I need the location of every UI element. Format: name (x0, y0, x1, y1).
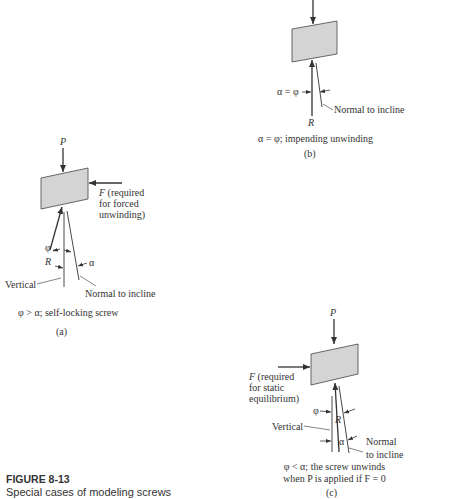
panel-c-vertical-label: Vertical (272, 421, 303, 432)
panel-c-phi-label: φ (313, 405, 319, 416)
panel-b-condition: α = φ; impending unwinding (258, 133, 373, 145)
panel-c-alpha-label: α (339, 436, 344, 447)
panel-c-f-label: F (249, 371, 255, 382)
panel-c-tag: (c) (326, 487, 337, 499)
panel-a-alpha-label: α (89, 257, 94, 268)
panel-b-block (292, 21, 337, 62)
panel-b-normal-line (316, 63, 322, 107)
panel-a-phi-label: φ (45, 242, 51, 253)
panel-c-condition: φ < α; the screw unwinds when P is appli… (283, 461, 386, 485)
panel-c-p-label: P (330, 307, 336, 318)
panel-b-angle-label: α = φ (277, 86, 299, 97)
panel-a-condition: φ > α; self-locking screw (18, 307, 119, 319)
panel-a-block (41, 168, 88, 209)
panel-c-f-note: F (required for static equilibrium) (249, 371, 299, 404)
panel-a-vertical-label: Vertical (5, 279, 36, 290)
panel-b-r-label: R (308, 117, 314, 128)
panel-c-block (311, 344, 358, 385)
panel-a-f-label: F (99, 187, 105, 198)
panel-a-f-note: F (required for forced unwinding) (99, 187, 145, 220)
panel-a-normal-label: Normal to incline (85, 288, 156, 299)
panel-c-r-label: R (335, 414, 341, 425)
panel-a-r-arrow (50, 207, 62, 250)
panel-c-normal-label: Normal to incline (366, 435, 404, 461)
panel-a-r-label: R (45, 256, 51, 267)
panel-a-p-label: P (60, 136, 66, 147)
figure-number: FIGURE 8-13 (6, 473, 70, 485)
panel-a-normal-line (67, 211, 79, 280)
panel-a-tag: (a) (56, 326, 67, 338)
panel-b-diagram (292, 0, 337, 116)
panel-b-tag: (b) (304, 148, 316, 160)
figure-caption: Special cases of modeling screws (6, 486, 171, 498)
panel-b-normal-label: Normal to incline (334, 104, 405, 115)
